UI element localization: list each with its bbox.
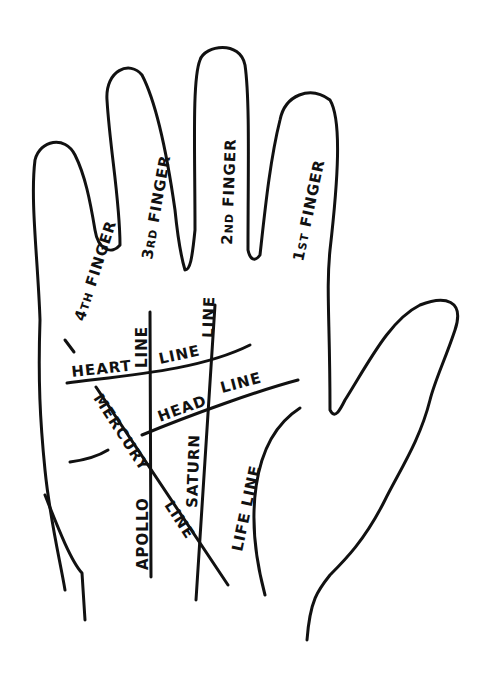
label-1st-finger: 1ST FINGER <box>289 158 328 263</box>
label-saturn-line-top: LINE <box>199 296 218 339</box>
label-apollo-line-top: LINE <box>133 326 151 368</box>
label-apollo: APOLLO <box>134 497 152 570</box>
life-line <box>254 408 300 595</box>
wrist-left <box>45 495 85 620</box>
label-head: HEAD <box>155 391 209 425</box>
palm-diagram: 4TH FINGER 3RD FINGER 2ND FINGER 1ST FIN… <box>0 0 483 682</box>
label-life-line: LIFE LINE <box>228 463 264 553</box>
label-saturn: SATURN <box>183 434 204 508</box>
label-3rd-finger: 3RD FINGER <box>138 153 174 260</box>
minor-line-left <box>70 450 108 462</box>
label-mercury: MERCURY <box>90 390 153 474</box>
label-2nd-finger: 2ND FINGER <box>218 138 240 245</box>
minor-tick <box>65 340 74 352</box>
